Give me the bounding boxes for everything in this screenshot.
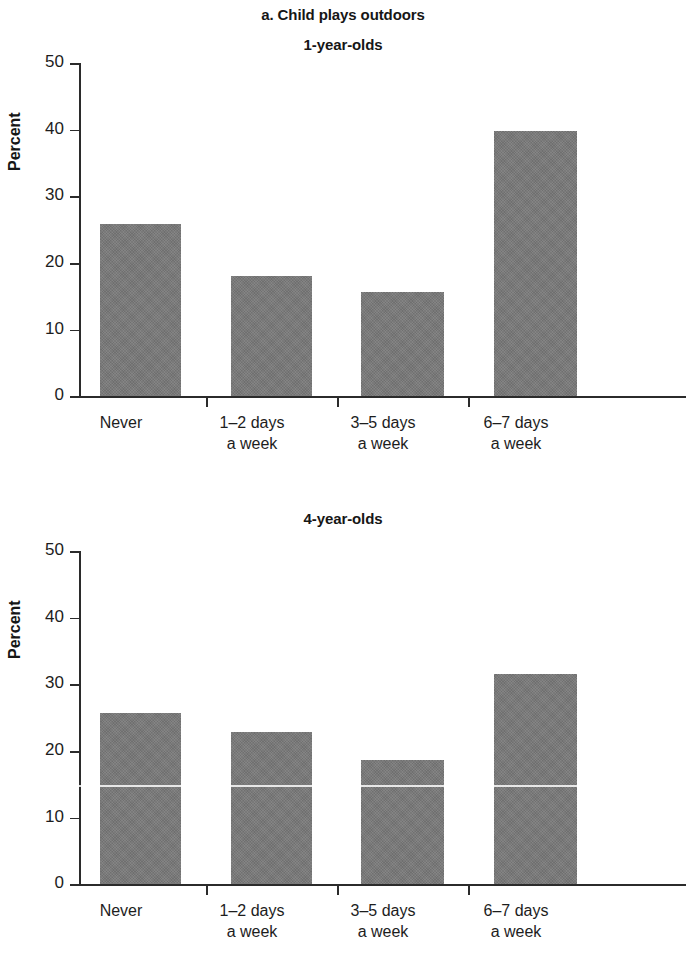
y-tick-label-20: 20 xyxy=(45,740,64,760)
y-tick-label-20: 20 xyxy=(45,252,64,272)
x-tick-3 xyxy=(468,398,470,407)
x-tick-3 xyxy=(468,886,470,895)
bar-3-5-days xyxy=(361,292,444,396)
x-tick-2 xyxy=(337,398,339,407)
plot-area: 0 10 20 30 40 50 xyxy=(79,551,686,886)
y-tick-40: 40 xyxy=(70,130,79,132)
y-tick-label-30: 30 xyxy=(45,185,64,205)
y-tick-10: 10 xyxy=(70,818,79,820)
y-tick-0: 0 xyxy=(70,884,79,886)
plot-area: 0 10 20 30 40 50 xyxy=(79,63,686,398)
x-category-label-never: Never xyxy=(60,412,182,433)
y-tick-50: 50 xyxy=(70,551,79,553)
panel-4-year-olds: 4-year-olds Percent 0 10 20 30 40 50 xyxy=(0,488,686,964)
figure: a. Child plays outdoors 1-year-olds Perc… xyxy=(0,0,686,964)
bar-6-7-days xyxy=(494,131,577,396)
x-category-label-3-5-days: 3–5 days a week xyxy=(322,412,444,454)
y-tick-20: 20 xyxy=(70,263,79,265)
x-category-label-6-7-days: 6–7 days a week xyxy=(455,412,577,454)
x-axis-line xyxy=(79,884,686,886)
x-axis-line xyxy=(79,396,686,398)
panel-title: 1-year-olds xyxy=(0,36,686,53)
x-category-label-6-7-days: 6–7 days a week xyxy=(455,900,577,942)
y-axis-label: Percent xyxy=(6,600,24,659)
panel-title: 4-year-olds xyxy=(0,510,686,527)
y-tick-label-40: 40 xyxy=(45,607,64,627)
y-tick-label-50: 50 xyxy=(45,52,64,72)
bar-1-2-days xyxy=(231,276,312,397)
y-tick-30: 30 xyxy=(70,684,79,686)
x-category-label-1-2-days: 1–2 days a week xyxy=(191,412,313,454)
bar-never xyxy=(100,713,181,884)
bar-3-5-days xyxy=(361,760,444,884)
y-tick-label-30: 30 xyxy=(45,673,64,693)
y-tick-50: 50 xyxy=(70,63,79,65)
panel-1-year-olds: 1-year-olds Percent 0 10 20 30 40 50 xyxy=(0,0,686,480)
x-tick-1 xyxy=(206,886,208,895)
x-tick-1 xyxy=(206,398,208,407)
y-tick-label-10: 10 xyxy=(45,319,64,339)
y-tick-20: 20 xyxy=(70,751,79,753)
bar-6-7-days xyxy=(494,674,577,885)
y-tick-label-50: 50 xyxy=(45,540,64,560)
y-tick-label-40: 40 xyxy=(45,119,64,139)
y-tick-40: 40 xyxy=(70,618,79,620)
y-tick-label-10: 10 xyxy=(45,807,64,827)
y-axis-line xyxy=(79,63,81,398)
y-tick-10: 10 xyxy=(70,330,79,332)
y-tick-label-0: 0 xyxy=(55,385,64,405)
y-tick-label-0: 0 xyxy=(55,873,64,893)
y-axis-line xyxy=(79,551,81,886)
x-category-label-1-2-days: 1–2 days a week xyxy=(191,900,313,942)
y-tick-30: 30 xyxy=(70,196,79,198)
y-tick-0: 0 xyxy=(70,396,79,398)
x-category-label-3-5-days: 3–5 days a week xyxy=(322,900,444,942)
x-tick-2 xyxy=(337,886,339,895)
bar-never xyxy=(100,224,181,396)
x-category-label-never: Never xyxy=(60,900,182,921)
bar-1-2-days xyxy=(231,732,312,884)
y-axis-label: Percent xyxy=(6,112,24,171)
